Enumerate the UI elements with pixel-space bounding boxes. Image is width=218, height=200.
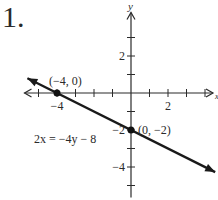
y-tick-label: −2 <box>112 123 125 137</box>
x-tick-label: 2 <box>165 99 171 113</box>
x-axis-label: x <box>214 92 218 101</box>
y-tick-label: −4 <box>112 160 125 174</box>
point-label: (−4, 0) <box>49 74 82 88</box>
point-label: (0, −2) <box>138 123 171 137</box>
data-point <box>54 90 61 97</box>
equation-label: 2x = −4y − 8 <box>34 132 96 146</box>
data-point <box>128 127 135 134</box>
y-axis-label: y <box>127 0 133 12</box>
x-tick-label: −4 <box>51 99 64 113</box>
coordinate-plane: xy −422−2−4(−4, 0)(0, −2)2x = −4y − 8 <box>0 0 218 200</box>
y-tick-label: 2 <box>119 49 125 63</box>
series-line-left-arrow <box>27 78 38 86</box>
series-line-right-arrow <box>204 164 215 172</box>
